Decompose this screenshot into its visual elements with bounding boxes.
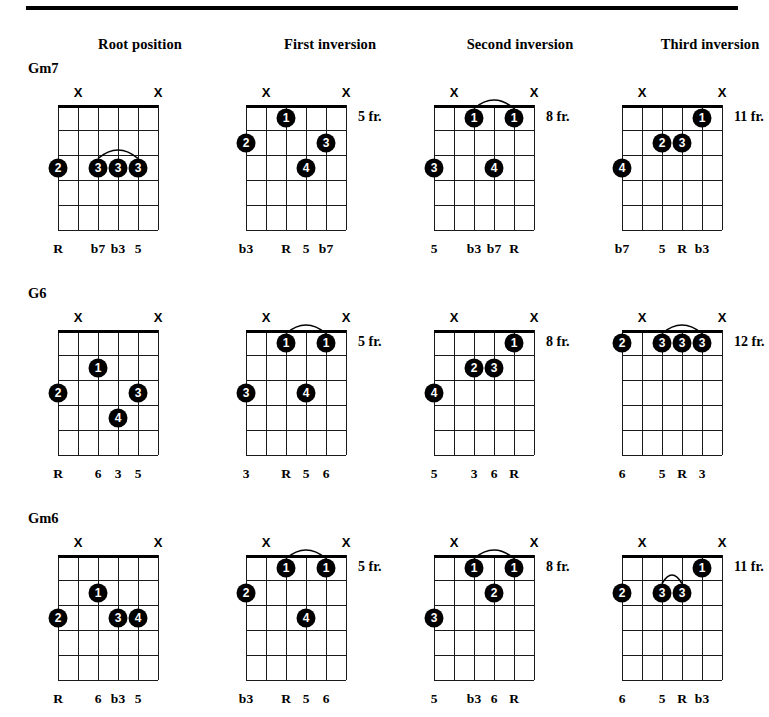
finger-dot[interactable]: 4 <box>129 608 148 627</box>
string-line <box>642 330 643 455</box>
interval-label: b3 <box>111 242 125 256</box>
finger-dot[interactable]: 1 <box>277 558 296 577</box>
finger-dot[interactable]: 2 <box>613 583 632 602</box>
column-header-1: Root position <box>98 36 182 53</box>
finger-dot[interactable]: 3 <box>109 608 128 627</box>
muted-string-x-icon: X <box>530 536 539 549</box>
finger-dot[interactable]: 1 <box>317 558 336 577</box>
finger-dot[interactable]: 3 <box>237 383 256 402</box>
finger-dot[interactable]: 4 <box>109 408 128 427</box>
nut-line <box>246 330 346 333</box>
finger-dot[interactable]: 4 <box>297 608 316 627</box>
finger-dot[interactable]: 2 <box>653 133 672 152</box>
finger-dot[interactable]: 3 <box>673 583 692 602</box>
chord-diagram[interactable]: XX12348 fr.536R <box>416 305 586 480</box>
finger-dot[interactable]: 4 <box>613 158 632 177</box>
fret-line <box>58 430 158 431</box>
chord-diagram[interactable]: XX2333Rb7b35 <box>40 80 210 255</box>
finger-dot[interactable]: 1 <box>693 558 712 577</box>
chord-diagram[interactable]: XX1234R635 <box>40 305 210 480</box>
finger-dot[interactable]: 2 <box>49 158 68 177</box>
chord-diagram[interactable]: XX233312 fr.65R3 <box>604 305 769 480</box>
chord-diagram[interactable]: XX123311 fr.65Rb3 <box>604 530 769 705</box>
fretboard-grid: XX1233 <box>622 555 722 680</box>
muted-string-x-icon: X <box>74 86 83 99</box>
fret-position-label: 5 fr. <box>358 334 382 350</box>
finger-dot[interactable]: 3 <box>109 158 128 177</box>
interval-label: 6 <box>95 692 102 706</box>
finger-dot[interactable]: 2 <box>237 133 256 152</box>
finger-dot[interactable]: 4 <box>425 383 444 402</box>
string-line <box>722 105 723 230</box>
muted-string-x-icon: X <box>74 536 83 549</box>
fretboard-grid: XX1234 <box>246 105 346 230</box>
interval-label: b3 <box>695 242 709 256</box>
finger-dot[interactable]: 2 <box>49 383 68 402</box>
finger-dot[interactable]: 3 <box>653 583 672 602</box>
fret-line <box>246 430 346 431</box>
muted-string-x-icon: X <box>530 311 539 324</box>
string-line <box>642 555 643 680</box>
finger-dot[interactable]: 1 <box>465 108 484 127</box>
interval-label: b7 <box>615 242 629 256</box>
string-line <box>642 105 643 230</box>
chord-diagram[interactable]: XX123411 fr.b75Rb3 <box>604 80 769 255</box>
string-line <box>346 555 347 680</box>
fret-line <box>434 655 534 656</box>
finger-dot[interactable]: 3 <box>673 133 692 152</box>
finger-dot[interactable]: 4 <box>485 158 504 177</box>
finger-dot[interactable]: 4 <box>297 158 316 177</box>
interval-label: 5 <box>135 467 142 481</box>
finger-dot[interactable]: 3 <box>693 333 712 352</box>
finger-dot[interactable]: 4 <box>297 383 316 402</box>
finger-dot[interactable]: 3 <box>317 133 336 152</box>
finger-dot[interactable]: 1 <box>505 558 524 577</box>
finger-dot[interactable]: 1 <box>89 358 108 377</box>
chord-diagram[interactable]: XX11345 fr.3R56 <box>228 305 398 480</box>
interval-label: R <box>281 242 291 256</box>
muted-string-x-icon: X <box>342 311 351 324</box>
finger-dot[interactable]: 3 <box>425 608 444 627</box>
finger-dot[interactable]: 1 <box>693 108 712 127</box>
chord-diagram[interactable]: XX11348 fr.5b3b7R <box>416 80 586 255</box>
chord-row-g6: G6XX1234R635XX11345 fr.3R56XX12348 fr.53… <box>0 285 764 500</box>
chord-diagram[interactable]: XX1234R6b35 <box>40 530 210 705</box>
interval-label: b3 <box>467 692 481 706</box>
finger-dot[interactable]: 1 <box>505 108 524 127</box>
finger-dot[interactable]: 1 <box>277 333 296 352</box>
fret-line <box>58 180 158 181</box>
fret-line <box>246 680 346 681</box>
finger-dot[interactable]: 2 <box>613 333 632 352</box>
finger-dot[interactable]: 3 <box>129 158 148 177</box>
interval-label: 5 <box>659 242 666 256</box>
finger-dot[interactable]: 2 <box>465 358 484 377</box>
string-line <box>266 105 267 230</box>
interval-label: 6 <box>95 467 102 481</box>
chord-diagram[interactable]: XX11238 fr.5b36R <box>416 530 586 705</box>
nut-line <box>434 555 534 558</box>
fret-line <box>622 680 722 681</box>
finger-dot[interactable]: 1 <box>89 583 108 602</box>
finger-dot[interactable]: 3 <box>485 358 504 377</box>
fret-line <box>434 605 534 606</box>
finger-dot[interactable]: 3 <box>129 383 148 402</box>
chord-diagram[interactable]: XX11245 fr.b3R56 <box>228 530 398 705</box>
finger-dot[interactable]: 1 <box>505 333 524 352</box>
chord-diagram[interactable]: XX12345 fr.b3R5b7 <box>228 80 398 255</box>
finger-dot[interactable]: 3 <box>89 158 108 177</box>
chord-name-label: G6 <box>28 285 47 302</box>
string-line <box>158 555 159 680</box>
finger-dot[interactable]: 2 <box>237 583 256 602</box>
finger-dot[interactable]: 3 <box>653 333 672 352</box>
finger-dot[interactable]: 3 <box>673 333 692 352</box>
finger-dot[interactable]: 1 <box>277 108 296 127</box>
finger-dot[interactable]: 2 <box>49 608 68 627</box>
string-line <box>622 555 623 680</box>
finger-dot[interactable]: 1 <box>465 558 484 577</box>
finger-dot[interactable]: 1 <box>317 333 336 352</box>
nut-line <box>246 105 346 108</box>
finger-dot[interactable]: 3 <box>425 158 444 177</box>
chord-row-gm6: Gm6XX1234R6b35XX11245 fr.b3R56XX11238 fr… <box>0 510 764 717</box>
interval-label: 5 <box>431 242 438 256</box>
finger-dot[interactable]: 2 <box>485 583 504 602</box>
